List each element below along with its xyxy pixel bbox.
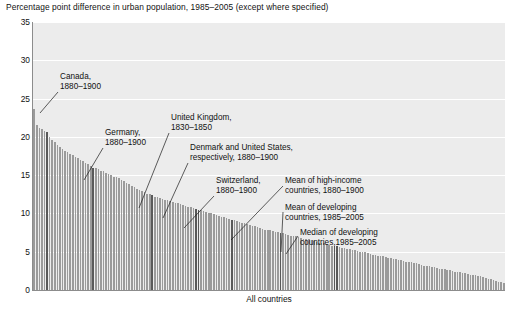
bar xyxy=(33,109,35,290)
bar xyxy=(51,140,53,290)
bar xyxy=(354,250,356,290)
bar xyxy=(64,151,66,290)
y-tick-label: 5 xyxy=(2,248,30,256)
bar xyxy=(380,256,382,290)
bar xyxy=(452,271,454,290)
bar xyxy=(146,194,148,290)
bar xyxy=(387,258,389,290)
bar xyxy=(210,213,212,290)
bar xyxy=(123,181,125,290)
bar xyxy=(149,194,151,290)
bar xyxy=(162,199,164,290)
bar xyxy=(103,171,105,290)
bar-highlighted xyxy=(334,246,336,290)
y-tick-label: 25 xyxy=(2,95,30,103)
bar xyxy=(490,279,492,290)
bar xyxy=(359,252,361,290)
annotation-mean-developing: Mean of developing countries, 1985–2005 xyxy=(285,203,364,223)
bar xyxy=(277,232,279,290)
bar xyxy=(318,243,320,290)
bar xyxy=(57,145,59,290)
bar xyxy=(434,267,436,290)
bar xyxy=(82,161,84,290)
bar xyxy=(249,225,251,290)
bar xyxy=(144,192,146,290)
bar xyxy=(426,266,428,291)
bar xyxy=(113,177,115,290)
bar xyxy=(370,254,372,290)
y-tick-label: 20 xyxy=(2,133,30,141)
bar xyxy=(169,201,171,290)
bar xyxy=(352,250,354,290)
bar xyxy=(357,251,359,290)
bar xyxy=(493,280,495,290)
bar xyxy=(110,175,112,290)
bar xyxy=(295,236,297,290)
bar xyxy=(416,263,418,290)
chart-figure: Percentage point difference in urban pop… xyxy=(0,0,526,316)
bar xyxy=(241,223,243,290)
bar xyxy=(105,173,107,290)
bar xyxy=(364,252,366,290)
bar xyxy=(400,260,402,290)
bar xyxy=(477,276,479,290)
bar xyxy=(262,229,264,290)
bar xyxy=(331,246,333,290)
bar xyxy=(377,256,379,290)
x-axis-label: All countries xyxy=(33,294,505,304)
bar xyxy=(226,218,228,290)
annotation-united-kingdom: United Kingdom, 1830–1850 xyxy=(171,113,232,133)
bar xyxy=(185,206,187,290)
bar xyxy=(121,180,123,290)
bar xyxy=(236,221,238,290)
bar xyxy=(395,259,397,290)
bar xyxy=(164,200,166,290)
bar xyxy=(118,178,120,290)
y-axis-ticks: 35302520151050 xyxy=(0,0,30,316)
bar xyxy=(264,230,266,290)
bar xyxy=(362,252,364,290)
y-tick-label: 15 xyxy=(2,171,30,179)
bar xyxy=(213,214,215,290)
bar xyxy=(367,253,369,290)
bar-highlighted xyxy=(231,220,233,290)
bar xyxy=(77,158,79,290)
bar xyxy=(221,217,223,291)
bar xyxy=(413,263,415,290)
bar xyxy=(411,262,413,290)
bar xyxy=(100,171,102,290)
bar xyxy=(272,231,274,290)
gridline xyxy=(33,99,505,100)
bar xyxy=(62,149,64,290)
bar xyxy=(154,197,156,290)
bar xyxy=(95,168,97,290)
bar xyxy=(480,276,482,290)
bar xyxy=(252,226,254,290)
gridline xyxy=(33,22,505,23)
bar xyxy=(126,183,128,290)
bar xyxy=(293,236,295,290)
bar xyxy=(462,273,464,290)
bar xyxy=(223,217,225,290)
bar xyxy=(421,265,423,290)
bar xyxy=(408,262,410,290)
y-tick-label: 0 xyxy=(2,286,30,294)
bar xyxy=(431,267,433,290)
bar xyxy=(472,275,474,290)
bar xyxy=(418,264,420,290)
bar xyxy=(108,174,110,290)
bar-highlighted xyxy=(151,195,153,290)
bar xyxy=(482,277,484,290)
bar xyxy=(239,222,241,290)
x-axis-line xyxy=(33,290,505,291)
bar xyxy=(441,269,443,290)
bar xyxy=(87,164,89,290)
bar xyxy=(54,142,56,290)
bar xyxy=(141,191,143,290)
bar xyxy=(275,232,277,290)
bar xyxy=(131,186,133,290)
bar xyxy=(464,273,466,290)
bar xyxy=(216,215,218,290)
bar xyxy=(326,244,328,290)
bar xyxy=(180,204,182,290)
